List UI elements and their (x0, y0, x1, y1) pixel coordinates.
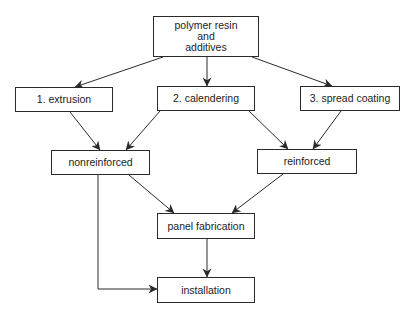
node-label: installation (181, 285, 231, 296)
node-extrusion: 1. extrusion (15, 87, 113, 112)
edge-calendering-reinforced (249, 111, 288, 149)
node-label: 1. extrusion (37, 94, 91, 105)
edge-nonreinforced-installation (98, 175, 157, 289)
node-installation: installation (157, 277, 255, 303)
node-label: reinforced (284, 156, 331, 167)
edge-reinforced-panel (232, 174, 283, 213)
edge-nonreinforced-panel (129, 175, 174, 213)
node-label: polymer resin and additives (174, 20, 237, 53)
node-label: panel fabrication (167, 221, 244, 232)
node-nonreinforced: nonreinforced (51, 150, 150, 175)
node-label: 2. calendering (173, 93, 239, 104)
edge-resin-extrusion (75, 57, 163, 87)
edge-calendering-nonreinforced (126, 111, 160, 150)
edge-resin-spread (252, 57, 332, 86)
edge-spread-reinforced (313, 111, 341, 149)
node-panel-fabrication: panel fabrication (157, 213, 255, 239)
node-reinforced: reinforced (257, 149, 357, 174)
edge-extrusion-nonreinforced (70, 112, 100, 150)
node-label: nonreinforced (68, 157, 132, 168)
node-polymer-resin: polymer resin and additives (153, 16, 259, 57)
node-label: 3. spread coating (310, 93, 391, 104)
node-spread-coating: 3. spread coating (300, 86, 400, 111)
node-calendering: 2. calendering (157, 86, 255, 111)
